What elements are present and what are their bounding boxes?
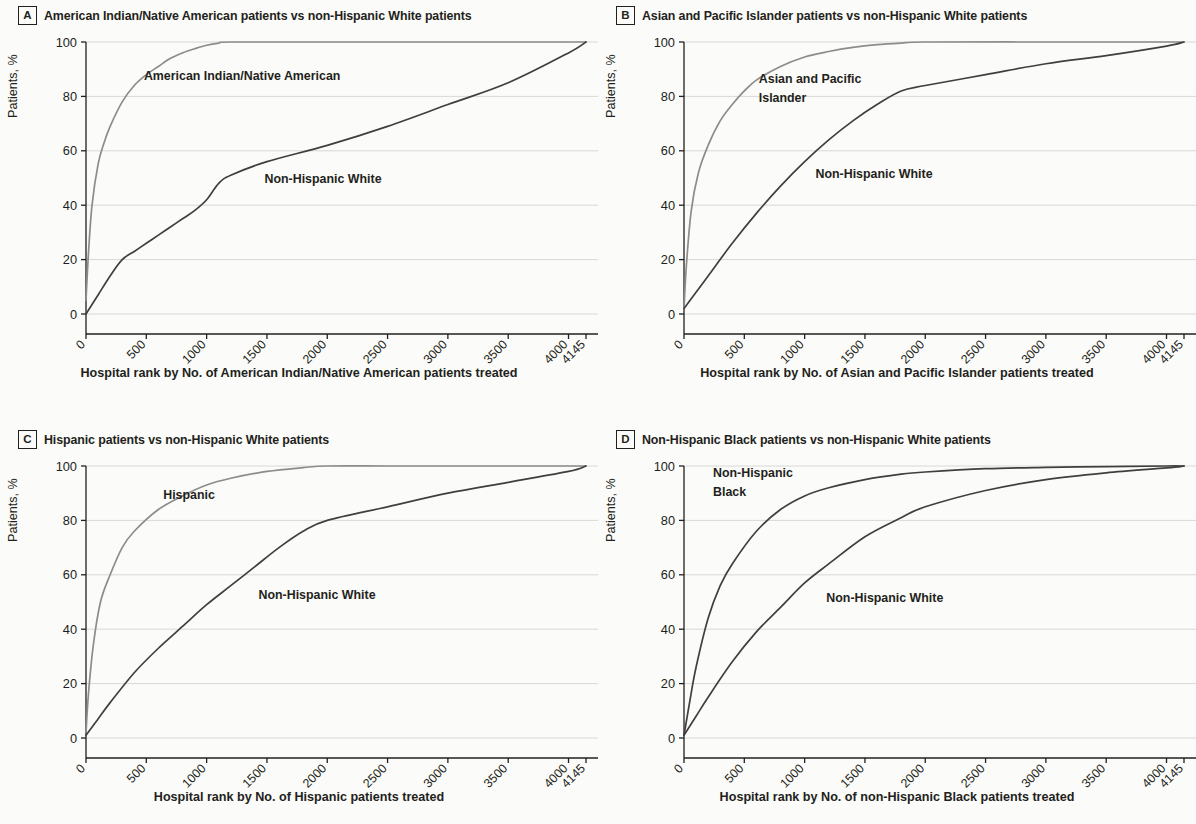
curve-label-white: Non-Hispanic White <box>826 591 943 605</box>
panel-title: Asian and Pacific Islander patients vs n… <box>642 9 1027 23</box>
y-tick-label: 100 <box>56 35 77 50</box>
curve-label-minority: Black <box>713 485 746 499</box>
figure-grid: AAmerican Indian/Native American patient… <box>0 0 1196 824</box>
y-tick-label: 80 <box>661 513 675 528</box>
x-tick-label: 3000 <box>1019 761 1048 790</box>
x-tick-label: 3000 <box>421 337 450 366</box>
y-tick-label: 100 <box>654 459 675 474</box>
x-tick-label: 3500 <box>481 337 510 366</box>
curve-label-white: Non-Hispanic White <box>265 172 382 186</box>
x-tick-label: 3000 <box>421 761 450 790</box>
y-tick-label: 20 <box>661 252 675 267</box>
plot-area: Patients, %02040608010005001000150020002… <box>598 452 1196 752</box>
y-tick-label: 40 <box>661 622 675 637</box>
x-tick-label: 500 <box>124 761 149 786</box>
panel-header: AAmerican Indian/Native American patient… <box>18 6 590 25</box>
x-tick-label: 3000 <box>1019 337 1048 366</box>
plot-svg: 0204060801000500100015002000250030003500… <box>22 28 598 368</box>
x-tick-label: 3500 <box>1079 761 1108 790</box>
x-tick-label: 2000 <box>300 337 329 366</box>
panel-c: CHispanic patients vs non-Hispanic White… <box>0 424 598 824</box>
x-tick-label: 0 <box>73 761 88 776</box>
curve-label-minority: Hispanic <box>163 488 215 502</box>
y-tick-label: 20 <box>661 676 675 691</box>
y-tick-label: 0 <box>70 731 77 746</box>
panel-letter-badge: C <box>18 430 37 449</box>
curve-label-white: Non-Hispanic White <box>259 588 376 602</box>
panel-header: BAsian and Pacific Islander patients vs … <box>616 6 1188 25</box>
panel-title: Non-Hispanic Black patients vs non-Hispa… <box>642 433 991 447</box>
y-tick-label: 60 <box>63 143 77 158</box>
curve-label-white: Non-Hispanic White <box>816 167 933 181</box>
y-tick-label: 100 <box>56 459 77 474</box>
curve-label-minority: Asian and Pacific <box>759 72 862 86</box>
y-tick-label: 0 <box>668 307 675 322</box>
panel-d: DNon-Hispanic Black patients vs non-Hisp… <box>598 424 1196 824</box>
plot-svg: 0204060801000500100015002000250030003500… <box>620 28 1196 368</box>
y-tick-label: 80 <box>63 513 77 528</box>
x-axis-label: Hospital rank by No. of non-Hispanic Bla… <box>598 790 1196 804</box>
x-tick-label: 2000 <box>898 761 927 790</box>
panel-a: AAmerican Indian/Native American patient… <box>0 0 598 424</box>
x-tick-label: 2000 <box>898 337 927 366</box>
panel-letter-badge: B <box>616 6 635 25</box>
x-tick-label: 1000 <box>777 761 806 790</box>
x-tick-label: 0 <box>671 761 686 776</box>
curve-label-minority: Islander <box>759 91 807 105</box>
y-tick-label: 60 <box>661 567 675 582</box>
x-tick-label: 1000 <box>777 337 806 366</box>
y-tick-label: 0 <box>668 731 675 746</box>
y-tick-label: 20 <box>63 252 77 267</box>
panel-b: BAsian and Pacific Islander patients vs … <box>598 0 1196 424</box>
y-tick-label: 60 <box>661 143 675 158</box>
curve-label-minority: Non-Hispanic <box>713 466 793 480</box>
y-tick-label: 40 <box>63 622 77 637</box>
x-tick-label: 500 <box>722 761 747 786</box>
x-tick-label: 500 <box>722 337 747 362</box>
curve-label-minority: American Indian/Native American <box>144 69 340 83</box>
x-tick-label: 3500 <box>481 761 510 790</box>
panel-letter-badge: A <box>18 6 37 25</box>
panel-letter-badge: D <box>616 430 635 449</box>
x-axis-label: Hospital rank by No. of Asian and Pacifi… <box>598 366 1196 380</box>
x-axis-label: Hospital rank by No. of American Indian/… <box>0 366 598 380</box>
x-tick-label: 1500 <box>240 337 269 366</box>
x-axis-label: Hospital rank by No. of Hispanic patient… <box>0 790 598 804</box>
x-tick-label: 1000 <box>179 337 208 366</box>
x-tick-label: 1500 <box>838 761 867 790</box>
y-tick-label: 100 <box>654 35 675 50</box>
y-axis-label: Patients, % <box>604 54 618 118</box>
y-axis-label: Patients, % <box>6 478 20 542</box>
plot-area: Patients, %02040608010005001000150020002… <box>0 28 598 328</box>
y-tick-label: 40 <box>63 198 77 213</box>
x-tick-label: 500 <box>124 337 149 362</box>
panel-header: CHispanic patients vs non-Hispanic White… <box>18 430 590 449</box>
x-tick-label: 2500 <box>360 761 389 790</box>
panel-title: Hispanic patients vs non-Hispanic White … <box>44 433 329 447</box>
plot-svg: 0204060801000500100015002000250030003500… <box>22 452 598 792</box>
y-tick-label: 20 <box>63 676 77 691</box>
y-axis-label: Patients, % <box>6 54 20 118</box>
panel-header: DNon-Hispanic Black patients vs non-Hisp… <box>616 430 1188 449</box>
x-tick-label: 1500 <box>240 761 269 790</box>
y-tick-label: 80 <box>63 89 77 104</box>
panel-title: American Indian/Native American patients… <box>44 9 472 23</box>
plot-svg: 0204060801000500100015002000250030003500… <box>620 452 1196 792</box>
x-tick-label: 2500 <box>958 761 987 790</box>
x-tick-label: 2500 <box>360 337 389 366</box>
x-tick-label: 1000 <box>179 761 208 790</box>
y-tick-label: 0 <box>70 307 77 322</box>
y-tick-label: 40 <box>661 198 675 213</box>
y-tick-label: 60 <box>63 567 77 582</box>
y-axis-label: Patients, % <box>604 478 618 542</box>
x-tick-label: 2000 <box>300 761 329 790</box>
y-tick-label: 80 <box>661 89 675 104</box>
x-tick-label: 3500 <box>1079 337 1108 366</box>
x-tick-label: 1500 <box>838 337 867 366</box>
x-tick-label: 0 <box>73 337 88 352</box>
plot-area: Patients, %02040608010005001000150020002… <box>598 28 1196 328</box>
plot-area: Patients, %02040608010005001000150020002… <box>0 452 598 752</box>
x-tick-label: 2500 <box>958 337 987 366</box>
x-tick-label: 0 <box>671 337 686 352</box>
